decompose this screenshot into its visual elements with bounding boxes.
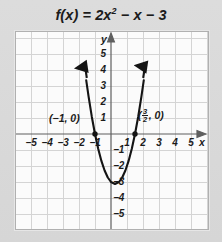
fraction-denominator: 2	[142, 115, 148, 124]
y-tick--1: −1	[113, 145, 124, 155]
y-tick-5: 5	[95, 49, 106, 59]
x-tick-4: 4	[172, 138, 178, 148]
x-tick--4: −4	[41, 138, 52, 148]
x-tick--5: −5	[25, 138, 36, 148]
x-tick--2: −2	[73, 138, 84, 148]
x-tick-1: 1	[124, 138, 130, 148]
figure-title: f(x) = 2x2 − x − 3	[0, 6, 222, 23]
y-tick--3: −3	[113, 177, 124, 187]
title-remainder: − x − 3	[117, 7, 167, 23]
x-tick--3: −3	[57, 138, 68, 148]
coordinate-plane: −5 −4 −3 −2 −1 1 2 3 4 5 5 4 3 2 1 −1 −2…	[15, 31, 209, 230]
y-tick-2: 2	[95, 97, 106, 107]
title-x-squared-base: x	[103, 7, 111, 23]
plot-labels: −5 −4 −3 −2 −1 1 2 3 4 5 5 4 3 2 1 −1 −2…	[16, 32, 208, 229]
x-tick-3: 3	[156, 138, 162, 148]
fraction-three-halves: 32	[142, 108, 148, 125]
annotation-root-left: (−1, 0)	[49, 113, 80, 124]
y-tick--4: −4	[113, 193, 124, 203]
annotation-paren-close: , 0)	[149, 109, 164, 121]
x-tick--1: −1	[89, 138, 100, 148]
y-tick-3: 3	[95, 81, 106, 91]
title-equals: = 2	[78, 7, 103, 23]
y-tick-4: 4	[95, 65, 106, 75]
y-tick--5: −5	[113, 209, 124, 219]
y-axis-label: y	[101, 34, 107, 45]
y-tick--2: −2	[113, 161, 124, 171]
annotation-paren-open: (	[138, 109, 142, 121]
y-tick-1: 1	[95, 113, 106, 123]
x-tick-2: 2	[140, 138, 146, 148]
x-tick-5: 5	[188, 138, 194, 148]
fraction-numerator: 3	[142, 108, 148, 116]
annotation-root-right: (32, 0)	[138, 108, 164, 125]
x-axis-label: x	[199, 137, 205, 148]
